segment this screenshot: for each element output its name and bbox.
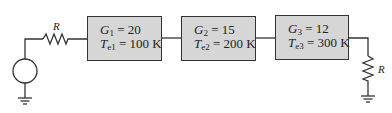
stage-2-temp: = 200 K [213, 36, 256, 51]
amplifier-stage-1: G1 = 20 Te1 = 100 K [87, 16, 162, 61]
amplifier-stage-2: G2 = 15 Te2 = 200 K [181, 16, 256, 61]
stage-3-gain: = 12 [305, 21, 329, 36]
load-resistor-label: R [378, 63, 385, 75]
source-resistor-label: R [53, 20, 60, 32]
wire-source-top [25, 39, 43, 59]
amplifier-stage-3: G3 = 12 Te3 = 300 K [275, 15, 349, 60]
stage-3-temp: = 300 K [307, 35, 350, 50]
ground-icon-right [361, 96, 375, 102]
voltage-source-icon [13, 59, 37, 83]
stage-1-temp: = 100 K [119, 36, 162, 51]
stage-1-gain: = 20 [117, 22, 141, 37]
ground-icon-left [18, 98, 32, 104]
source-resistor-icon [43, 34, 87, 44]
wire-output [349, 38, 368, 56]
load-resistor-icon [363, 56, 373, 96]
stage-2-gain: = 15 [211, 22, 235, 37]
